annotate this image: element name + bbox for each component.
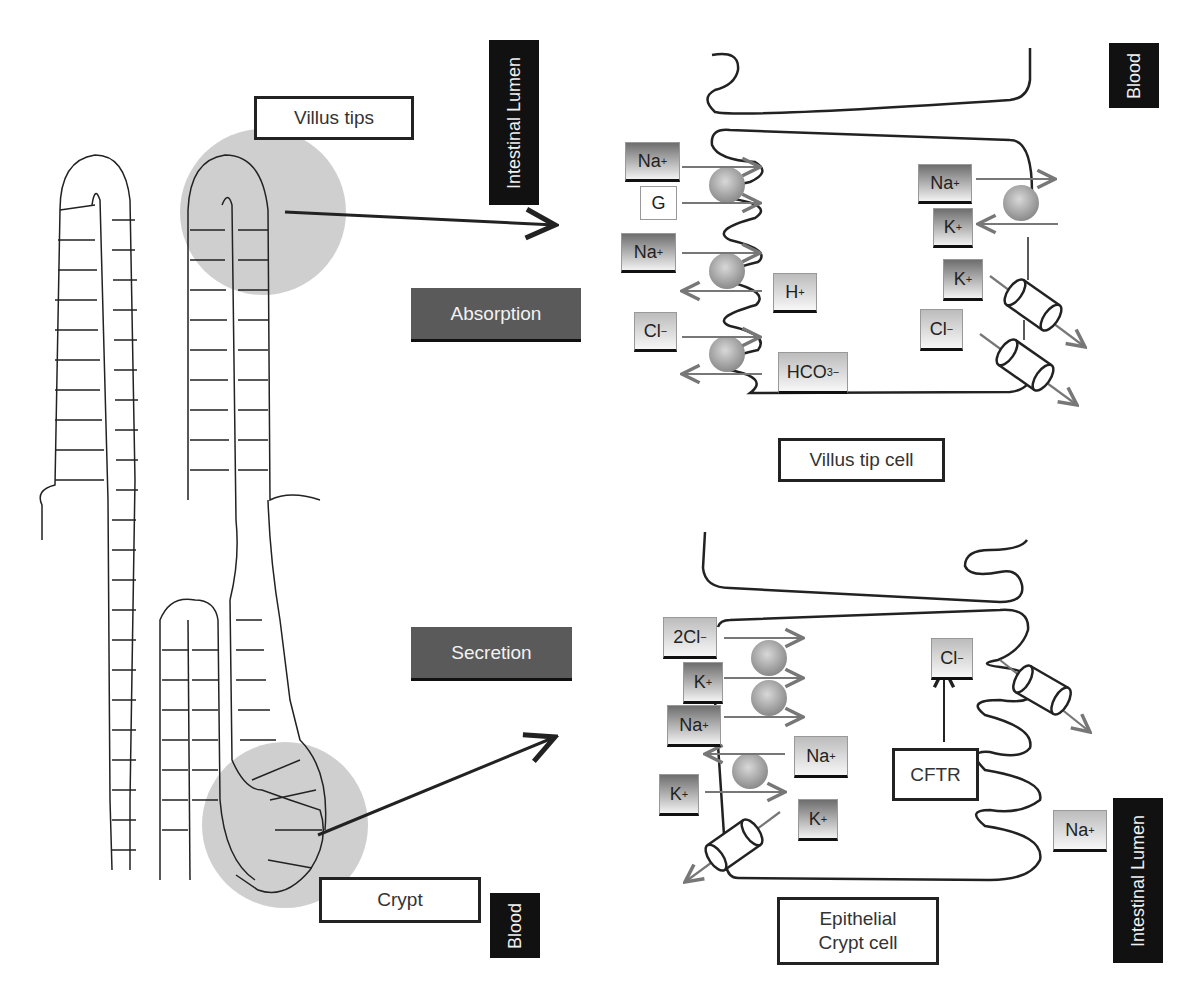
cftr-label: CFTR bbox=[892, 748, 979, 801]
crypt-text: Crypt bbox=[377, 888, 422, 912]
ion-na-apical-crypt: Na+ bbox=[1053, 810, 1107, 852]
ion-charge: + bbox=[966, 273, 972, 285]
blood-top-label: Blood bbox=[1109, 43, 1159, 108]
ion-2cl-basolateral: 2Cl− bbox=[663, 617, 717, 659]
ion-cl-basolateral: Cl− bbox=[920, 309, 963, 351]
ion-cl-apical: Cl− bbox=[634, 312, 677, 352]
ion-charge: + bbox=[821, 813, 827, 825]
crypt-label: Crypt bbox=[319, 877, 481, 923]
ion-charge: − bbox=[833, 366, 839, 378]
ion-k-basolateral-2: K+ bbox=[943, 259, 983, 301]
villus-tip-cell-caption: Villus tip cell bbox=[778, 438, 945, 482]
absorption-text: Absorption bbox=[451, 303, 542, 325]
ion-charge: + bbox=[1088, 824, 1094, 836]
ion-na-apical-1: Na+ bbox=[625, 142, 680, 182]
villus-tip-cell-text: Villus tip cell bbox=[809, 448, 913, 472]
villus-tip-highlight bbox=[180, 129, 346, 295]
villus-tip-cell-membrane bbox=[708, 48, 1036, 393]
ion-base: K bbox=[944, 217, 956, 238]
intestinal-lumen-bottom-text: Intestinal Lumen bbox=[1128, 814, 1149, 946]
ion-charge: − bbox=[661, 325, 667, 337]
ion-charge: − bbox=[700, 631, 706, 643]
crypt-cell-caption: Epithelial Crypt cell bbox=[777, 897, 939, 965]
ion-base: 2Cl bbox=[673, 627, 700, 648]
ion-k-basolateral-1: K+ bbox=[933, 208, 973, 248]
ion-charge: − bbox=[957, 652, 963, 664]
blood-bottom-text: Blood bbox=[505, 902, 526, 948]
villus-tips-text: Villus tips bbox=[294, 106, 374, 130]
ion-cl-apical-crypt: Cl− bbox=[931, 638, 973, 680]
intestinal-lumen-top-label: Intestinal Lumen bbox=[489, 40, 539, 205]
ion-base: Na bbox=[930, 173, 953, 194]
cftr-text: CFTR bbox=[910, 763, 961, 787]
ion-charge: + bbox=[702, 719, 708, 731]
ion-base: K bbox=[694, 672, 706, 693]
diagram-drawing bbox=[0, 0, 1184, 993]
ion-na-apical-2: Na+ bbox=[621, 233, 676, 273]
ion-base: Na bbox=[806, 746, 829, 767]
ion-hco3-apical: HCO3− bbox=[778, 352, 848, 394]
secretion-text: Secretion bbox=[451, 642, 531, 664]
ion-base: HCO bbox=[787, 362, 827, 383]
left-villus bbox=[40, 155, 138, 870]
ion-base: H bbox=[785, 282, 798, 303]
intestinal-lumen-bottom-label: Intestinal Lumen bbox=[1113, 798, 1163, 963]
villus-tips-label: Villus tips bbox=[254, 96, 414, 140]
ion-base: Cl bbox=[644, 321, 661, 342]
ion-base: Na bbox=[1065, 820, 1088, 841]
blood-top-text: Blood bbox=[1124, 52, 1145, 98]
ion-charge: + bbox=[657, 246, 663, 258]
ion-k-basolateral-crypt-1: K+ bbox=[683, 662, 723, 704]
ion-base: K bbox=[670, 784, 682, 805]
ion-k-crypt-inner: K+ bbox=[798, 799, 838, 841]
ion-base: G bbox=[651, 193, 665, 214]
ion-charge: + bbox=[829, 750, 835, 762]
ion-base: K bbox=[954, 269, 966, 290]
villus-tip-channels bbox=[993, 276, 1066, 394]
ion-charge: + bbox=[706, 676, 712, 688]
ion-base: Cl bbox=[930, 319, 947, 340]
intestinal-transport-diagram: Villus tips Crypt Absorption Secretion I… bbox=[0, 0, 1184, 993]
glucose-apical: G bbox=[640, 186, 677, 220]
ion-base: Na bbox=[634, 242, 657, 263]
ion-k-basolateral-crypt-2: K+ bbox=[659, 774, 699, 816]
ion-base: K bbox=[809, 809, 821, 830]
ion-base: Na bbox=[679, 715, 702, 736]
ion-charge: − bbox=[947, 323, 953, 335]
intestinal-lumen-top-text: Intestinal Lumen bbox=[504, 56, 525, 188]
crypt-cell-caption-line2: Crypt cell bbox=[818, 931, 897, 955]
ion-charge: + bbox=[953, 177, 959, 189]
ion-charge: + bbox=[798, 286, 804, 298]
ion-base: Na bbox=[638, 151, 661, 172]
ion-na-basolateral-crypt: Na+ bbox=[667, 705, 721, 747]
absorption-label: Absorption bbox=[411, 288, 581, 342]
ion-charge: + bbox=[661, 155, 667, 167]
ion-na-basolateral: Na+ bbox=[918, 164, 972, 204]
crypt-cell-caption-line1: Epithelial bbox=[819, 907, 896, 931]
ion-na-crypt-inner: Na+ bbox=[794, 736, 848, 778]
blood-bottom-label: Blood bbox=[490, 893, 540, 958]
secretion-label: Secretion bbox=[411, 627, 572, 681]
ion-base: Cl bbox=[940, 648, 957, 669]
ion-charge: + bbox=[956, 221, 962, 233]
ion-charge: + bbox=[682, 788, 688, 800]
ion-h-apical: H+ bbox=[773, 273, 817, 313]
